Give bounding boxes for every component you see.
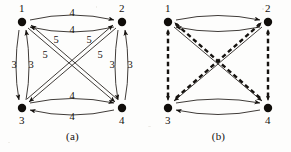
node-2[interactable] <box>118 18 126 26</box>
scan-speckle <box>148 126 151 127</box>
node-label-3: 3 <box>19 114 25 126</box>
edge-weight-label: 5 <box>53 34 58 45</box>
node-label-2: 2 <box>119 2 125 14</box>
node-1[interactable] <box>18 18 26 26</box>
figure-canvas: 1 2 3 4 4 4 3 3 3 3 5 5 5 5 4 4 (a) <box>0 0 291 152</box>
node-label-3: 3 <box>165 114 171 126</box>
edge-3-4 <box>176 99 260 115</box>
node-label-4: 4 <box>119 114 125 126</box>
node-4[interactable] <box>118 104 126 112</box>
panel-caption-a: (a) <box>0 130 145 142</box>
edge-weight-label: 4 <box>69 7 75 18</box>
node-label-1: 1 <box>19 2 25 14</box>
scan-speckle <box>262 8 264 10</box>
edge-weight-label: 5 <box>86 34 91 45</box>
figure-panel-b: 1 2 3 4 (b) <box>146 0 291 152</box>
edge-weight-label: 4 <box>69 90 75 101</box>
node-3[interactable] <box>164 104 172 112</box>
edge-1-3 <box>16 30 29 100</box>
scan-speckle <box>96 6 97 8</box>
graph-diagram-b: 1 2 3 4 <box>146 0 291 132</box>
node-label-1: 1 <box>165 2 171 14</box>
node-label-4: 4 <box>265 114 271 126</box>
edge-2-4 <box>115 30 128 100</box>
edge-weight-label: 3 <box>28 59 33 70</box>
edge-weight-label: 3 <box>109 59 114 70</box>
panel-caption-b: (b) <box>146 130 291 142</box>
graph-diagram-a: 1 2 3 4 4 4 3 3 3 3 5 5 5 5 4 4 <box>0 0 145 132</box>
node-1[interactable] <box>164 18 172 26</box>
edge-weight-label: 5 <box>42 49 47 60</box>
node-2[interactable] <box>264 18 272 26</box>
edge-weight-label: 4 <box>69 24 75 35</box>
node-label-2: 2 <box>265 2 271 14</box>
edge-weight-label: 3 <box>127 59 132 70</box>
node-4[interactable] <box>264 104 272 112</box>
edge-weight-label: 5 <box>97 49 102 60</box>
scan-speckle <box>8 142 10 143</box>
edge-weight-label: 3 <box>11 59 16 70</box>
figure-panel-a: 1 2 3 4 4 4 3 3 3 3 5 5 5 5 4 4 (a) <box>0 0 145 152</box>
node-3[interactable] <box>18 104 26 112</box>
edge-weight-label: 4 <box>69 111 75 122</box>
edge-1-2 <box>176 16 260 32</box>
